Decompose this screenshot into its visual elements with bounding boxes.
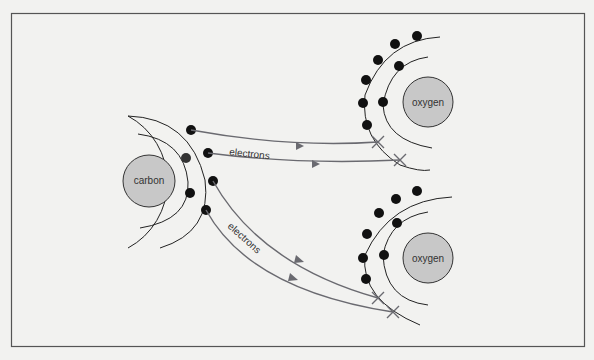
frame-border xyxy=(12,14,585,347)
oxygen-top-label: oxygen xyxy=(412,97,444,108)
electrons-label-bottom: electrons xyxy=(226,220,264,255)
electrons-label-top: electrons xyxy=(229,146,271,161)
electron-arrows xyxy=(191,130,406,318)
oxygen-atom-top: oxygen xyxy=(358,31,453,170)
oxygen-bottom-label: oxygen xyxy=(412,253,444,264)
carbon-atom: carbon xyxy=(123,116,218,248)
carbon-dioxide-bonding-diagram: carbon oxygen oxygen xyxy=(0,0,594,360)
carbon-label: carbon xyxy=(134,175,165,186)
